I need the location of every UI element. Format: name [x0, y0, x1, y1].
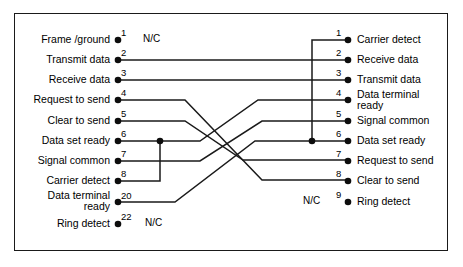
left-pin-number-2: 2	[121, 47, 126, 58]
left-pin-label-1: Frame /ground	[10, 34, 110, 45]
right-pin-label-6: Data set ready	[357, 135, 425, 146]
left-pin-number-8: 8	[121, 168, 126, 179]
right-pin-label-7: Request to send	[357, 155, 433, 166]
left-pin-number-7: 7	[121, 148, 126, 159]
left-pin-number-4: 4	[121, 87, 126, 98]
right-pin-label-9: Ring detect	[357, 196, 410, 207]
right-pin-label-8: Clear to send	[357, 175, 419, 186]
left-pin-number-6: 6	[121, 128, 126, 139]
right-pin-number-2: 2	[336, 47, 341, 58]
left-pin-label-6: Data set ready	[10, 135, 110, 146]
right-pin-number-9: 9	[336, 189, 341, 200]
right-pin-number-5: 5	[336, 108, 341, 119]
left-nc-tag-22: N/C	[145, 217, 162, 228]
right-pin-number-4: 4	[336, 87, 341, 98]
left-pin-label-5: Clear to send	[10, 115, 110, 126]
left-pin-number-22: 22	[121, 211, 132, 222]
left-pin-number-3: 3	[121, 67, 126, 78]
right-nc-tag-9: N/C	[303, 195, 320, 206]
right-pin-number-8: 8	[336, 168, 341, 179]
right-pin-label-3: Transmit data	[357, 74, 421, 85]
diagram-canvas: Frame /ground 1 N/C Transmit data 2 Rece…	[0, 0, 463, 267]
left-pin-label-22: Ring detect	[10, 218, 110, 229]
right-pin-number-3: 3	[336, 67, 341, 78]
diagram-border	[14, 13, 448, 251]
right-pin-label-2: Receive data	[357, 54, 418, 65]
right-pin-label-1: Carrier detect	[357, 34, 421, 45]
right-pin-label-5: Signal common	[357, 115, 429, 126]
left-pin-label-2: Transmit data	[10, 54, 110, 65]
left-pin-label-20-line2: ready	[10, 201, 110, 212]
left-pin-number-1: 1	[121, 27, 126, 38]
left-pin-label-4: Request to send	[10, 94, 110, 105]
right-pin-number-7: 7	[336, 148, 341, 159]
left-pin-label-7: Signal common	[10, 155, 110, 166]
left-nc-tag-1: N/C	[143, 33, 160, 44]
left-pin-number-5: 5	[121, 108, 126, 119]
left-pin-label-3: Receive data	[10, 74, 110, 85]
left-pin-number-20: 20	[121, 190, 132, 201]
right-pin-label-4-line2: ready	[357, 100, 383, 111]
right-pin-number-1: 1	[336, 27, 341, 38]
left-pin-label-8: Carrier detect	[10, 175, 110, 186]
right-pin-number-6: 6	[336, 128, 341, 139]
